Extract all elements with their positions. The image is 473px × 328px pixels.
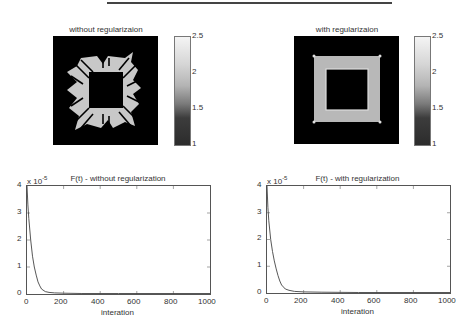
- plot-left-xtick-600: 600: [127, 297, 140, 306]
- cbar-right-tick-2-5: 2.5: [432, 31, 443, 40]
- plot-left-xtick-1000: 1000: [198, 297, 216, 306]
- plot-right-xlabel: interation: [266, 307, 449, 316]
- plot-right-xtick-600: 600: [367, 296, 380, 305]
- plot-left-ytick-2: 2: [17, 234, 21, 243]
- plot-left-xtick-400: 400: [91, 297, 104, 306]
- cbar-left-tick-2-5: 2.5: [192, 31, 203, 40]
- image-right-title: with regularizaion: [294, 25, 400, 34]
- top-rule: [107, 2, 392, 4]
- cbar-right-tick-2: 2: [432, 67, 436, 76]
- plot-left-xtick-800: 800: [164, 297, 177, 306]
- plot-right-axes: [266, 185, 451, 294]
- plot-left-title: F(t) - without regularization: [26, 174, 210, 183]
- plot-right-ytick-0: 0: [257, 287, 261, 296]
- plot-left-ytick-3: 3: [17, 207, 21, 216]
- plot-right-xtick-200: 200: [294, 296, 307, 305]
- image-right-heatmap: [294, 36, 399, 144]
- plot-left-curve: [27, 186, 210, 294]
- plot-right-ytick-4: 4: [257, 180, 261, 189]
- plot-left-axes: [26, 185, 211, 295]
- plot-left-xtick-0: 0: [24, 297, 28, 306]
- image-left-title: without regularizaion: [53, 25, 159, 34]
- plot-right-ytick-3: 3: [257, 207, 261, 216]
- plot-left-ytick-0: 0: [17, 288, 21, 297]
- plot-left-xlabel: interation: [26, 308, 209, 317]
- irregular-ring-shape: [53, 36, 158, 145]
- plot-left-xtick-200: 200: [54, 297, 67, 306]
- plot-right-xtick-400: 400: [331, 296, 344, 305]
- yscale-exponent: -5: [42, 175, 47, 181]
- yscale-exponent: -5: [282, 175, 287, 181]
- plot-left-ytick-4: 4: [17, 180, 21, 189]
- colorbar-right: [414, 36, 431, 146]
- colorbar-left: [174, 36, 191, 146]
- image-left-heatmap: [53, 36, 158, 145]
- plot-left-ytick-1: 1: [17, 261, 21, 270]
- cbar-left-tick-2: 2: [192, 67, 196, 76]
- plot-right-xtick-1000: 1000: [438, 296, 456, 305]
- plot-right-ytick-1: 1: [257, 260, 261, 269]
- plot-right-title: F(t) - with regularization: [266, 174, 449, 183]
- cbar-left-tick-1: 1: [192, 139, 196, 148]
- cbar-right-tick-1-5: 1.5: [432, 103, 443, 112]
- cbar-left-tick-1-5: 1.5: [192, 103, 203, 112]
- plot-right-ytick-2: 2: [257, 233, 261, 242]
- square-ring-shape: [294, 36, 399, 144]
- plot-right-xtick-800: 800: [404, 296, 417, 305]
- plot-right-curve: [267, 186, 450, 293]
- plot-right-xtick-0: 0: [264, 296, 268, 305]
- cbar-right-tick-1: 1: [432, 139, 436, 148]
